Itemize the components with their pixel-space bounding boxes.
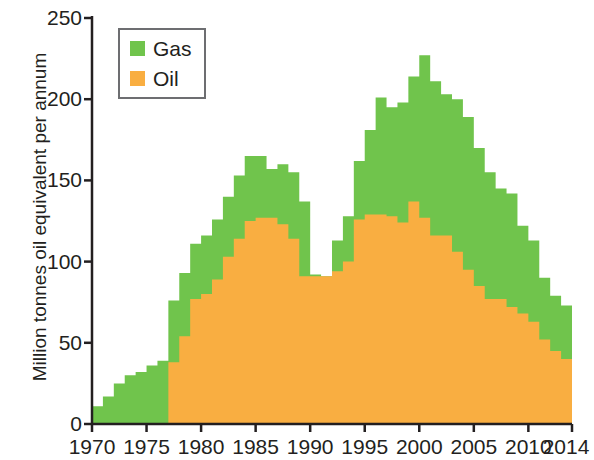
x-tick-label: 2000 [390,436,448,457]
x-tick-label: 2005 [445,436,503,457]
y-tick-label: 250 [20,7,82,28]
y-tick-label: 200 [20,88,82,109]
legend-item-oil: Oil [130,68,179,89]
legend-item-gas: Gas [130,38,192,59]
x-tick-label: 1970 [63,436,121,457]
x-tick-label: 1975 [118,436,176,457]
legend-swatch-gas [130,41,145,56]
y-tick-label: 100 [20,251,82,272]
x-tick-label: 1985 [227,436,285,457]
legend-label-gas: Gas [153,38,192,59]
x-tick-label: 2014 [537,436,594,457]
y-tick-label: 0 [20,413,82,434]
x-tick-label: 1990 [281,436,339,457]
chart-legend: Gas Oil [118,28,206,99]
y-axis-title: Million tonnes oil equivalent per annum [29,0,51,437]
legend-label-oil: Oil [153,68,179,89]
x-tick-label: 1995 [336,436,394,457]
area-series-group [92,55,572,424]
y-tick-label: 50 [20,332,82,353]
y-tick-label: 150 [20,169,82,190]
x-tick-label: 1980 [172,436,230,457]
legend-swatch-oil [130,71,145,86]
